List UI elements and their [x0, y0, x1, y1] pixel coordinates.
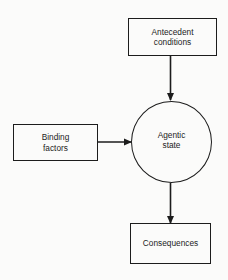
node-label-line: Antecedent: [152, 27, 194, 38]
node-label-line: state: [163, 140, 181, 151]
node-label-line: factors: [43, 143, 68, 154]
agentic-state-node: Agentic state: [131, 101, 212, 183]
node-label-line: Binding: [42, 132, 70, 143]
node-label-line: Consequences: [143, 238, 198, 249]
node-label-line: conditions: [154, 37, 191, 48]
binding-factors-node: Binding factors: [13, 124, 98, 161]
consequences-node: Consequences: [130, 223, 211, 264]
antecedent-conditions-node: Antecedent conditions: [128, 18, 217, 56]
node-label-line: Agentic: [158, 130, 186, 141]
